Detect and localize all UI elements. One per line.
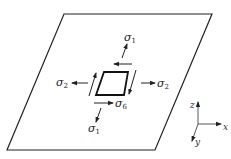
sigma6-label: σ6 xyxy=(115,97,128,111)
lamina-stress-diagram: σ1 σ2 σ2 σ6 σ1 z x y xyxy=(0,0,231,159)
sigma2-right-label: σ2 xyxy=(157,77,169,91)
shear-right-arrow xyxy=(129,70,136,94)
sigma1-bottom-label: σ1 xyxy=(88,122,100,136)
shear-left-arrow xyxy=(89,73,96,96)
sigma1-bottom-arrow xyxy=(96,108,101,122)
y-axis-label: y xyxy=(194,137,201,147)
sigma1-top-label: σ1 xyxy=(124,31,136,45)
z-axis-label: z xyxy=(189,100,195,110)
coordinate-axes: z x y xyxy=(189,100,228,147)
sigma2-left-label: σ2 xyxy=(56,76,68,90)
plate-outline xyxy=(7,14,212,150)
x-axis-label: x xyxy=(223,122,228,132)
sigma1-top-arrow xyxy=(122,44,127,58)
stress-element xyxy=(96,72,128,95)
